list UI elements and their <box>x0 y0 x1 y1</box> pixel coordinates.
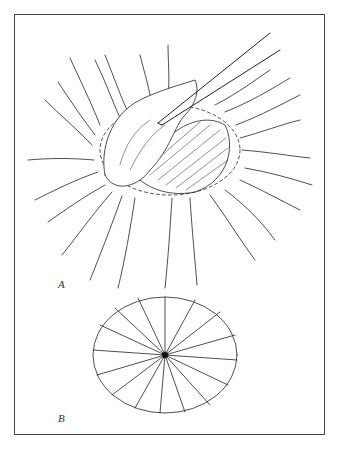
radiating-sutures <box>28 45 312 288</box>
panel-label-a: A <box>58 278 65 290</box>
illustration <box>0 0 340 457</box>
gathered-closure <box>93 297 237 413</box>
grasped-tissue <box>104 80 197 186</box>
panel-label-b: B <box>58 412 65 424</box>
center-point <box>162 352 168 358</box>
